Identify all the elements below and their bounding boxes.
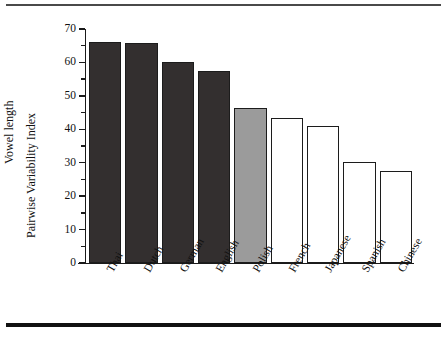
y-axis-tick-label-0: 0 [70,257,76,269]
y-axis-tick-label-20: 20 [65,190,77,202]
bar-french [271,118,303,263]
bar-german [162,62,194,263]
bar-english [198,71,230,263]
bar-series [87,0,414,264]
bar-japanese [307,126,339,263]
bar-thai [89,42,121,263]
y-axis-tick-label-30: 30 [65,157,77,169]
bar-polish [234,108,266,263]
y-axis-tick-label-50: 50 [65,90,77,102]
y-axis-tick-label-10: 10 [65,224,77,236]
chart-figure: Vowel length Pairwise Variability Index … [0,0,447,338]
y-axis-tick-label-60: 60 [65,57,77,69]
x-axis-tick-label-group: ThaiDutchGermanEnglishPolishFrenchJapane… [87,266,414,326]
bar-dutch [125,43,157,263]
y-axis-tick-label-70: 70 [65,23,77,35]
y-axis-tick-label-40: 40 [65,124,77,136]
y-axis-tick-group: 010203040506070 [0,0,85,338]
